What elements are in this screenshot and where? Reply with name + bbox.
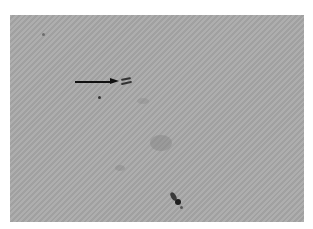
arrow-shaft: [75, 81, 111, 83]
micrograph-image: [10, 15, 304, 222]
rod-cell: [121, 81, 132, 85]
debris: [175, 199, 181, 205]
faint-smudge: [115, 165, 125, 171]
arrow-head-icon: [110, 78, 119, 84]
speck: [42, 33, 45, 36]
faint-smudge: [150, 135, 172, 151]
dark-dot: [98, 96, 101, 99]
faint-smudge: [137, 98, 149, 104]
debris: [180, 206, 183, 209]
